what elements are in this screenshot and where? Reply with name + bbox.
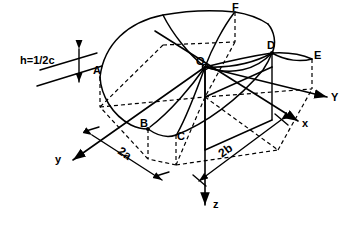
dash-inner-cross	[205, 97, 278, 150]
label-axis-x: x	[302, 117, 309, 129]
shell-generator-o-b	[150, 67, 205, 127]
figure-canvas: h=1/2c A B C D E F O 2a 2b Y y x z	[0, 0, 346, 229]
shell-generator-o-f	[205, 13, 234, 67]
shell-diagram: h=1/2c A B C D E F O 2a 2b Y y x z	[0, 0, 346, 229]
label-point-c: C	[177, 130, 185, 142]
marker-d	[270, 51, 274, 55]
shell-edge-front-lower	[148, 129, 176, 136]
span-a-tick-start	[86, 127, 99, 131]
label-point-e: E	[314, 49, 321, 61]
label-point-f: F	[232, 1, 239, 13]
dash-base-f-o	[205, 42, 235, 97]
point-markers-group	[146, 51, 274, 131]
label-axis-y-left: y	[55, 153, 62, 165]
label-axis-y-right: Y	[331, 91, 339, 103]
span-b-dimension-group	[193, 114, 288, 186]
dash-base-a-o	[100, 97, 205, 107]
shell-edge-top-rear	[235, 12, 268, 24]
label-rise: h=1/2c	[20, 54, 55, 66]
label-point-d: D	[267, 39, 275, 51]
label-axis-z: z	[213, 198, 219, 210]
span-b-line	[199, 120, 281, 181]
axis-y-upper-right	[205, 67, 327, 97]
label-point-b: B	[140, 117, 148, 129]
label-origin: O	[196, 55, 205, 67]
dash-base-lower-front	[148, 159, 176, 165]
axis-y-lower-left	[73, 67, 205, 160]
shell-edge-front-right	[176, 53, 272, 135]
construction-lines-group	[100, 12, 312, 165]
dash-inner-left	[100, 45, 163, 107]
axis-x	[155, 31, 298, 121]
span-a-tick-end	[156, 172, 169, 176]
label-point-a: A	[93, 64, 101, 76]
